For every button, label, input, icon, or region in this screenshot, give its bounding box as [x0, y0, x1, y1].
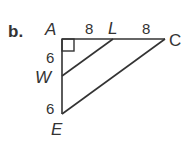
vertex-label-L: L — [108, 19, 117, 38]
segment-WL — [62, 39, 113, 76]
length-label-LC: 8 — [142, 20, 150, 37]
length-label-WE: 6 — [46, 100, 54, 117]
vertex-label-E: E — [51, 120, 63, 139]
vertex-label-C: C — [169, 31, 181, 50]
segment-EC — [62, 39, 165, 114]
length-label-AW: 6 — [46, 49, 54, 66]
right-angle-marker-icon — [62, 39, 74, 51]
triangle-diagram: b. A 8 L 8 C 6 W 6 E — [0, 0, 191, 146]
vertex-label-W: W — [35, 68, 53, 87]
problem-label: b. — [8, 22, 23, 41]
length-label-AL: 8 — [85, 20, 93, 37]
vertex-label-A: A — [44, 20, 56, 39]
